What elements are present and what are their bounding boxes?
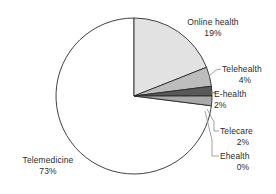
pie-label-telecare: Telecare 2% [220,126,274,148]
pie-label-telecare-name: Telecare [220,126,274,137]
pie-label-ehealth-name: Ehealth [220,151,274,162]
pie-label-ehealth: Ehealth 0% [220,151,274,173]
pie-label-online-health: Online health 19% [176,17,250,39]
pie-label-telecare-value: 2% [220,137,266,148]
pie-label-telemedicine-value: 73% [8,166,88,177]
pie-chart: Online health 19% Telehealth 4% E-health… [0,0,276,194]
pie-label-telehealth-value: 4% [222,75,268,86]
pie-label-online-health-name: Online health [176,17,250,28]
pie-label-ehealth-value: 0% [220,162,266,173]
pie-label-e-health-value: 2% [214,100,272,111]
pie-label-e-health-name: E-health [214,89,272,100]
pie-label-online-health-value: 19% [176,28,250,39]
pie-label-telemedicine-name: Telemedicine [8,155,88,166]
pie-label-e-health: E-health 2% [214,89,272,111]
pie-label-telehealth: Telehealth 4% [222,64,276,86]
leader-line-telehealth [209,69,221,76]
pie-label-telemedicine: Telemedicine 73% [8,155,88,177]
pie-label-telehealth-name: Telehealth [222,64,276,75]
